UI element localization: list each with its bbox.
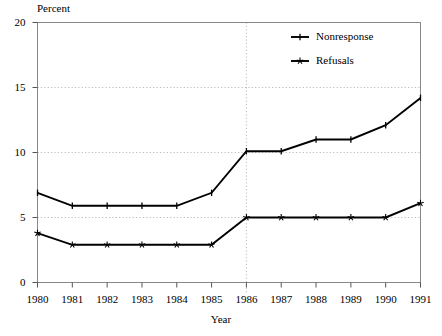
y-tick-label: 5 <box>0 212 26 223</box>
y-tick-label: 0 <box>0 277 26 288</box>
series-nonresponse <box>38 95 421 209</box>
y-tick-label: 20 <box>0 17 26 28</box>
legend-swatch-nonresponse <box>291 34 309 40</box>
y-tick-label: 10 <box>0 147 26 158</box>
plot-canvas <box>0 0 442 336</box>
line-chart: Percent Year 05101520 198019811982198319… <box>0 0 442 336</box>
series-refusals <box>34 200 423 248</box>
series-line <box>38 98 421 206</box>
legend-swatch-refusals <box>291 58 309 64</box>
legend-label: Nonresponse <box>316 31 373 42</box>
x-axis-title: Year <box>0 313 442 326</box>
x-tick-label: 1991 <box>401 294 441 305</box>
legend-label: Refusals <box>316 55 354 66</box>
y-tick-label: 15 <box>0 82 26 93</box>
y-axis-title: Percent <box>37 2 70 15</box>
series-line <box>38 203 421 245</box>
